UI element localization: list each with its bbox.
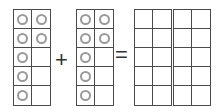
counter-circle-icon (17, 52, 28, 63)
ten-frame-cell (14, 29, 32, 48)
ten-frame-cell (77, 29, 95, 48)
equals-sign: = (115, 44, 128, 66)
ten-frame-cell (174, 67, 192, 86)
ten-frame-cell (135, 48, 153, 67)
counter-circle-icon (80, 71, 91, 82)
ten-frame-cell (192, 86, 210, 105)
ten-frame-cell (153, 10, 171, 29)
ten-frame-cell (95, 67, 113, 86)
counter-circle-icon (80, 52, 91, 63)
counter-circle-icon (99, 14, 110, 25)
ten-frame-cell (174, 86, 192, 105)
ten-frame-cell (14, 67, 32, 86)
ten-frame-cell (135, 10, 153, 29)
ten-frame-cell (174, 10, 192, 29)
counter-circle-icon (80, 33, 91, 44)
sum-ten-frame-2 (173, 9, 211, 106)
ten-frame-cell (174, 29, 192, 48)
counter-circle-icon (36, 33, 47, 44)
ten-frame-cell (135, 67, 153, 86)
ten-frame-cell (95, 29, 113, 48)
ten-frame-cell (32, 10, 50, 29)
ten-frame-cell (153, 67, 171, 86)
ten-frame-cell (32, 29, 50, 48)
ten-frame-cell (192, 29, 210, 48)
counter-circle-icon (99, 33, 110, 44)
ten-frame-cell (14, 86, 32, 105)
addend-1-ten-frame (13, 9, 51, 106)
ten-frame-cell (32, 86, 50, 105)
ten-frame-cell (135, 86, 153, 105)
counter-circle-icon (17, 90, 28, 101)
ten-frame-cell (77, 67, 95, 86)
ten-frame-cell (153, 48, 171, 67)
ten-frame-cell (32, 67, 50, 86)
ten-frame-cell (95, 10, 113, 29)
ten-frame-cell (14, 10, 32, 29)
ten-frame-cell (95, 48, 113, 67)
ten-frame-cell (153, 86, 171, 105)
ten-frame-cell (192, 48, 210, 67)
counter-circle-icon (36, 14, 47, 25)
counter-circle-icon (17, 33, 28, 44)
ten-frame-cell (32, 48, 50, 67)
addend-2-ten-frame (76, 9, 114, 106)
ten-frame-cell (77, 10, 95, 29)
ten-frame-cell (14, 48, 32, 67)
counter-circle-icon (17, 14, 28, 25)
counter-circle-icon (17, 71, 28, 82)
ten-frame-cell (192, 67, 210, 86)
ten-frame-cell (77, 48, 95, 67)
counter-circle-icon (80, 14, 91, 25)
ten-frame-cell (192, 10, 210, 29)
sum-ten-frame-1 (134, 9, 172, 106)
plus-sign: + (55, 49, 68, 71)
ten-frame-cell (174, 48, 192, 67)
ten-frame-cell (153, 29, 171, 48)
ten-frame-cell (77, 86, 95, 105)
ten-frame-cell (135, 29, 153, 48)
ten-frame-cell (95, 86, 113, 105)
counter-circle-icon (80, 90, 91, 101)
